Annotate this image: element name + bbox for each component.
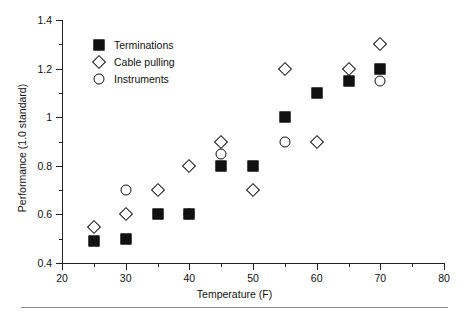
x-tick-major (62, 263, 63, 270)
open-circle-marker (216, 148, 227, 159)
y-tick-label: 0.4 (14, 257, 52, 269)
chart-legend: TerminationsCable pullingInstruments (88, 36, 175, 87)
x-tick-minor (412, 263, 413, 267)
filled-square-marker (152, 209, 163, 220)
filled-square-marker (216, 160, 227, 171)
x-tick-label: 50 (247, 272, 259, 284)
x-tick-major (253, 263, 254, 270)
legend-item: Terminations (88, 36, 175, 53)
y-tick-minor (59, 142, 63, 143)
filled-square-marker (94, 40, 105, 51)
open-circle-marker (94, 74, 105, 85)
x-tick-minor (349, 263, 350, 267)
open-circle-marker (375, 75, 386, 86)
x-tick-minor (285, 263, 286, 267)
legend-swatch (88, 36, 114, 53)
x-tick-label: 40 (183, 272, 195, 284)
filled-square-marker (279, 112, 290, 123)
x-tick-major (317, 263, 318, 270)
y-tick-minor (59, 190, 63, 191)
open-circle-marker (279, 136, 290, 147)
open-diamond-marker (92, 55, 106, 69)
bottom-divider (21, 307, 448, 308)
legend-swatch (88, 53, 114, 70)
y-tick-minor (59, 239, 63, 240)
y-tick-minor (59, 93, 63, 94)
filled-square-marker (120, 233, 131, 244)
legend-label: Terminations (114, 39, 174, 51)
open-circle-marker (120, 185, 131, 196)
legend-label: Instruments (114, 73, 169, 85)
y-tick-major (56, 117, 63, 118)
y-tick-major (56, 20, 63, 21)
x-tick-major (189, 263, 190, 270)
y-tick-minor (59, 44, 63, 45)
x-tick-label: 80 (438, 272, 450, 284)
filled-square-marker (311, 87, 322, 98)
y-tick-major (56, 166, 63, 167)
x-tick-label: 60 (311, 272, 323, 284)
x-tick-major (126, 263, 127, 270)
x-tick-label: 30 (120, 272, 132, 284)
legend-item: Instruments (88, 70, 175, 87)
y-tick-major (56, 214, 63, 215)
open-circle-marker (184, 209, 195, 220)
filled-square-marker (343, 75, 354, 86)
x-tick-major (444, 263, 445, 270)
figure: 0.40.60.811.21.420304050607080 Temperatu… (0, 0, 469, 316)
x-tick-minor (158, 263, 159, 267)
y-tick-major (56, 69, 63, 70)
y-axis-title: Performance (1.0 standard) (16, 58, 28, 238)
x-axis-title: Temperature (F) (0, 288, 469, 300)
filled-square-marker (88, 236, 99, 247)
x-tick-label: 20 (56, 272, 68, 284)
filled-square-marker (375, 63, 386, 74)
x-tick-label: 70 (374, 272, 386, 284)
legend-item: Cable pulling (88, 53, 175, 70)
filled-square-marker (248, 160, 259, 171)
legend-swatch (88, 70, 114, 87)
x-tick-minor (94, 263, 95, 267)
x-tick-minor (221, 263, 222, 267)
legend-label: Cable pulling (114, 56, 175, 68)
x-tick-major (380, 263, 381, 270)
y-tick-label: 1.4 (14, 14, 52, 26)
